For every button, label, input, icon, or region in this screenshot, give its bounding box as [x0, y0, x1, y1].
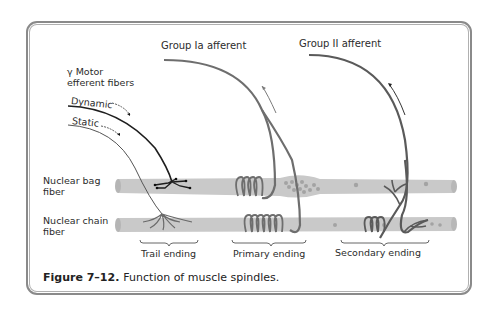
gamma-motor-label-line1: γ Motor [67, 66, 103, 77]
group-ii-afferent-nerve [309, 55, 428, 238]
nuclear-chain-label-line2: fiber [43, 226, 65, 237]
figure-caption-text: Function of muscle spindles. [123, 271, 279, 284]
group-ia-label: Group Ia afferent [161, 40, 246, 51]
nuclear-bag-label-line1: Nuclear bag [43, 175, 100, 186]
figure-number: Figure 7–12. [43, 271, 119, 284]
figure-caption: Figure 7–12.Function of muscle spindles. [43, 271, 279, 284]
nuclear-chain-label-line1: Nuclear chain [43, 215, 108, 226]
gamma-motor-label-line2: efferent fibers [67, 77, 134, 88]
primary-ending-label: Primary ending [233, 248, 305, 259]
secondary-ending-label: Secondary ending [335, 247, 421, 258]
ending-braces [140, 240, 429, 246]
trail-ending-label: Trail ending [141, 248, 196, 259]
nuclear-bag-label-line2: fiber [43, 186, 65, 197]
group-ii-label: Group II afferent [299, 38, 381, 49]
dynamic-arrow-icon [112, 103, 130, 115]
muscle-spindle-diagram [0, 0, 496, 309]
static-arrow-icon [101, 126, 119, 135]
arrow-up-ii-icon [388, 83, 392, 87]
group-ia-afferent-nerve [164, 60, 300, 232]
